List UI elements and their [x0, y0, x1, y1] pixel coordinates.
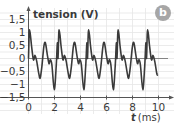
tension-chart: 1,510,50−0,5−1−1,5 0246810 tension (V) t…	[0, 0, 174, 123]
svg-text:−1,5: −1,5	[0, 91, 26, 103]
svg-text:0,5: 0,5	[9, 39, 26, 51]
svg-text:4: 4	[77, 101, 84, 113]
svg-text:1: 1	[19, 26, 26, 38]
y-tick-labels: 1,510,50−0,5−1−1,5	[0, 13, 26, 103]
y-axis-label: tension (V)	[33, 8, 99, 20]
svg-text:0: 0	[19, 52, 26, 64]
svg-text:0: 0	[25, 101, 32, 113]
svg-text:1,5: 1,5	[9, 13, 26, 25]
x-axis-label: t(ms)	[131, 112, 161, 123]
svg-text:−1: −1	[10, 78, 25, 90]
svg-text:−0,5: −0,5	[0, 65, 26, 77]
figure-badge: b	[155, 5, 171, 21]
svg-text:6: 6	[103, 101, 110, 113]
svg-text:2: 2	[51, 101, 58, 113]
grid	[0, 8, 174, 114]
